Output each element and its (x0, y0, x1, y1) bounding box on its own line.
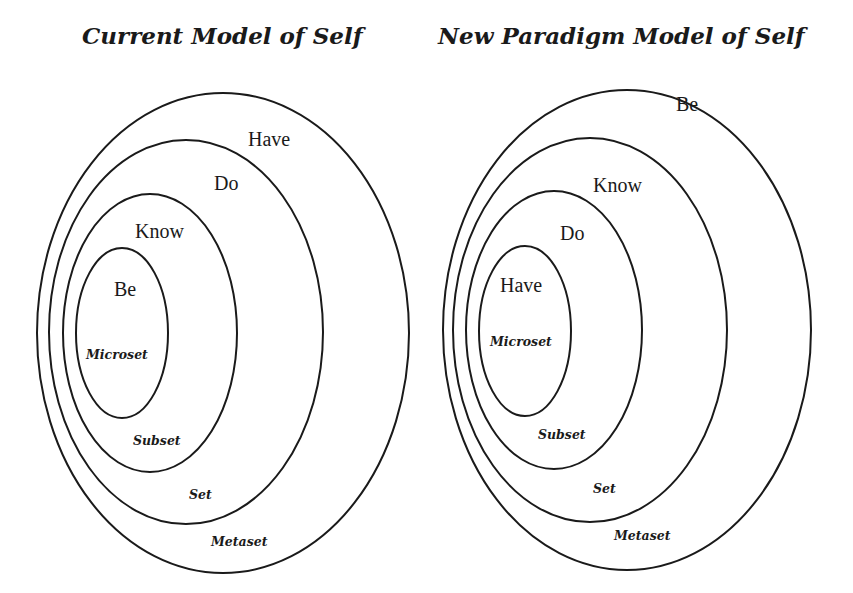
new-paradigm-diagram: Be Know Do Have Microset Subset Set Meta… (443, 90, 811, 570)
set-label: Subset (538, 427, 586, 442)
metaset-ellipse (37, 93, 409, 573)
set-label: Microset (85, 347, 148, 362)
nested-ellipses-diagram: Have Do Know Be Microset Subset Set Meta… (0, 0, 853, 593)
set-label: Set (593, 481, 616, 496)
level-label: Be (114, 278, 136, 300)
metaset-ellipse (443, 90, 811, 570)
microset-ellipse (76, 248, 168, 418)
set-label: Microset (489, 334, 552, 349)
set-label: Metaset (210, 534, 268, 549)
set-label: Metaset (613, 528, 671, 543)
microset-ellipse (479, 246, 571, 416)
level-label: Have (500, 274, 542, 296)
level-label: Know (135, 220, 184, 242)
level-label: Be (676, 93, 698, 115)
set-ellipse (49, 140, 323, 524)
set-label: Set (189, 487, 212, 502)
level-label: Do (560, 222, 584, 244)
set-ellipse (453, 138, 727, 522)
level-label: Do (214, 172, 238, 194)
level-label: Know (593, 174, 642, 196)
current-model-diagram: Have Do Know Be Microset Subset Set Meta… (37, 93, 409, 573)
level-label: Have (248, 128, 290, 150)
set-label: Subset (133, 433, 181, 448)
